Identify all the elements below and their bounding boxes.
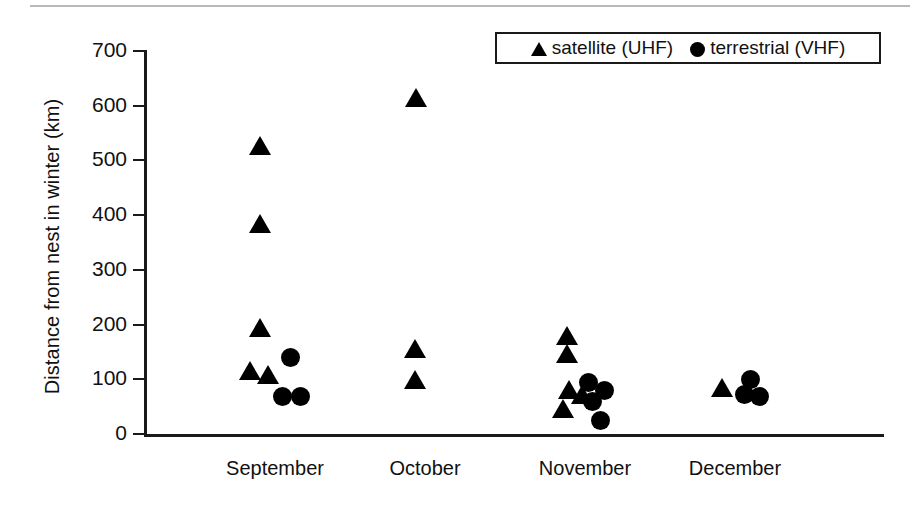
- legend-entry-terrestrial: terrestrial (VHF): [690, 37, 845, 59]
- data-point-triangle: [249, 136, 271, 155]
- y-tick-0: [133, 433, 144, 435]
- y-tick-label-0: 0: [55, 422, 127, 444]
- y-tick-label-600: 600: [55, 94, 127, 116]
- legend-label-terrestrial: terrestrial (VHF): [710, 37, 845, 59]
- data-point-circle: [750, 387, 769, 406]
- plot-area: [144, 45, 884, 441]
- y-tick-label-text: 400: [57, 203, 127, 224]
- y-tick-700: [133, 50, 144, 52]
- data-point-triangle: [556, 344, 578, 363]
- y-tick-label-100: 100: [55, 367, 127, 389]
- y-tick-label-300: 300: [55, 258, 127, 280]
- y-tick-label-400: 400: [55, 203, 127, 225]
- legend-entry-satellite: satellite (UHF): [531, 37, 673, 59]
- y-tick-label-text: 600: [57, 94, 127, 115]
- data-point-triangle: [556, 326, 578, 345]
- data-point-triangle: [404, 339, 426, 358]
- data-point-triangle: [711, 378, 733, 397]
- chart-legend: satellite (UHF) terrestrial (VHF): [495, 32, 881, 64]
- y-tick-label-text: 500: [57, 148, 127, 169]
- circle-icon: [690, 42, 705, 57]
- data-point-triangle: [249, 318, 271, 337]
- y-tick-500: [133, 159, 144, 161]
- data-point-triangle: [249, 214, 271, 233]
- data-point-triangle: [405, 88, 427, 107]
- top-divider-rule: [30, 5, 910, 7]
- data-point-circle: [281, 348, 300, 367]
- data-point-circle: [591, 411, 610, 430]
- y-tick-label-text: 0: [57, 422, 127, 443]
- y-tick-400: [133, 214, 144, 216]
- triangle-icon: [531, 42, 547, 56]
- y-tick-label-text: 300: [57, 258, 127, 279]
- scatter-plot-figure: Distance from nest in winter (km) 010020…: [0, 0, 921, 524]
- data-point-triangle: [257, 365, 279, 384]
- x-axis-label-november: November: [505, 457, 665, 480]
- x-axis-label-october: October: [345, 457, 505, 480]
- y-tick-label-200: 200: [55, 313, 127, 335]
- y-tick-label-text: 200: [57, 313, 127, 334]
- y-tick-label-500: 500: [55, 148, 127, 170]
- data-point-triangle: [404, 370, 426, 389]
- y-tick-100: [133, 378, 144, 380]
- y-tick-300: [133, 269, 144, 271]
- x-axis-label-september: September: [195, 457, 355, 480]
- y-tick-200: [133, 324, 144, 326]
- x-axis-label-december: December: [655, 457, 815, 480]
- y-tick-label-text: 100: [57, 367, 127, 388]
- data-point-triangle: [552, 399, 574, 418]
- y-tick-label-700: 700: [55, 39, 127, 61]
- y-tick-label-text: 700: [57, 39, 127, 60]
- legend-label-satellite: satellite (UHF): [552, 37, 673, 59]
- y-tick-600: [133, 105, 144, 107]
